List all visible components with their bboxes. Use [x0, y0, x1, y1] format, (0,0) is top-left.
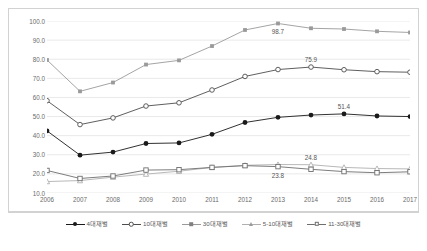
legend-marker-icon	[66, 220, 85, 229]
data-point-marker	[144, 104, 149, 109]
y-axis-tick-label: 20.0	[11, 170, 45, 177]
data-point-marker	[408, 31, 410, 35]
data-point-marker	[375, 29, 379, 33]
data-point-marker	[375, 69, 380, 74]
legend-item-label: 11-30대재벌	[328, 220, 361, 228]
data-point-marker	[47, 168, 49, 172]
data-point-marker	[111, 150, 116, 155]
legend-marker-icon	[242, 220, 261, 229]
y-axis-tick-label: 60.0	[11, 94, 45, 101]
data-point-marker	[309, 65, 314, 70]
data-point-marker	[243, 120, 248, 125]
y-axis-tick-label: 30.0	[11, 151, 45, 158]
legend-symbol-icon	[73, 222, 77, 226]
legend-item-label: 5-10대재벌	[263, 220, 293, 228]
data-point-marker	[111, 81, 115, 85]
data-point-marker	[408, 70, 410, 75]
data-point-label: 23.8	[272, 172, 284, 179]
data-point-marker	[210, 44, 214, 48]
legend-item[interactable]: 11-30대재벌	[307, 220, 361, 229]
data-point-marker	[408, 114, 410, 119]
data-point-marker	[177, 167, 181, 171]
legend-item[interactable]: 10대재벌	[122, 220, 168, 229]
legend-symbol-icon	[190, 222, 194, 226]
y-axis-tick-label: 40.0	[11, 132, 45, 139]
data-point-marker	[111, 116, 116, 121]
legend-symbol-icon	[249, 222, 253, 226]
x-axis-tick-label: 2017	[390, 195, 427, 205]
y-axis-tick-label: 90.0	[11, 37, 45, 44]
data-point-marker	[276, 22, 280, 26]
legend-marker-icon	[307, 220, 326, 229]
legend-divider	[8, 212, 419, 213]
data-point-marker	[342, 67, 347, 72]
data-point-marker	[111, 174, 115, 178]
data-point-marker	[210, 132, 215, 137]
legend-symbol-icon	[129, 222, 134, 227]
legend-item-label: 4대재벌	[87, 220, 108, 228]
y-axis-tick-label: 100.0	[11, 18, 45, 25]
data-point-marker	[276, 164, 280, 168]
legend-marker-icon	[182, 220, 201, 229]
data-point-marker	[243, 163, 247, 167]
y-axis-tick-label: 80.0	[11, 56, 45, 63]
x-axis: 2006200720082009201020112012201320142015…	[47, 195, 410, 209]
series-line	[47, 67, 410, 125]
data-point-marker	[243, 74, 248, 79]
series-canvas	[47, 21, 410, 193]
data-point-marker	[210, 88, 215, 93]
data-point-marker	[243, 28, 247, 32]
legend-item[interactable]: 4대재벌	[66, 220, 108, 229]
data-point-marker	[375, 171, 379, 175]
data-point-marker	[276, 67, 281, 72]
data-point-label: 24.8	[305, 154, 317, 161]
data-point-marker	[177, 141, 182, 146]
data-point-marker	[210, 165, 214, 169]
data-point-marker	[309, 113, 314, 118]
data-point-marker	[144, 141, 149, 146]
y-axis-tick-label: 70.0	[11, 75, 45, 82]
data-point-marker	[276, 115, 281, 120]
data-point-label: 98.7	[272, 28, 284, 35]
data-point-marker	[342, 27, 346, 31]
legend-item-label: 10대재벌	[143, 220, 168, 228]
data-point-marker	[78, 89, 82, 93]
data-point-marker	[309, 26, 313, 30]
data-point-marker	[309, 167, 313, 171]
data-point-marker	[78, 176, 82, 180]
data-point-label: 51.4	[338, 103, 350, 110]
data-point-marker	[342, 169, 346, 173]
data-point-marker	[78, 122, 83, 127]
y-axis: 100.090.080.070.060.050.040.030.020.010.…	[9, 21, 45, 193]
data-point-marker	[47, 58, 49, 62]
data-point-marker	[144, 168, 148, 172]
legend-item-label: 30대재벌	[203, 220, 228, 228]
series-line	[47, 23, 410, 91]
data-point-label: 75.9	[305, 56, 317, 63]
data-point-marker	[177, 58, 181, 62]
plot-area: 98.775.951.424.823.8	[47, 21, 410, 193]
legend-marker-icon	[122, 220, 141, 229]
series-line	[47, 165, 410, 182]
chart-page: 100.090.080.070.060.050.040.030.020.010.…	[0, 0, 427, 251]
data-point-marker	[408, 170, 410, 174]
chart-frame: 100.090.080.070.060.050.040.030.020.010.…	[8, 8, 419, 212]
data-point-marker	[78, 153, 83, 158]
chart-legend: 4대재벌10대재벌30대재벌5-10대재벌11-30대재벌	[8, 216, 419, 232]
data-point-marker	[342, 111, 347, 116]
data-point-marker	[177, 100, 182, 105]
legend-item[interactable]: 30대재벌	[182, 220, 228, 229]
data-point-marker	[47, 98, 49, 103]
legend-symbol-icon	[314, 222, 318, 226]
y-axis-tick-label: 50.0	[11, 113, 45, 120]
data-point-marker	[375, 114, 380, 119]
data-point-marker	[144, 63, 148, 67]
legend-item[interactable]: 5-10대재벌	[242, 220, 293, 229]
